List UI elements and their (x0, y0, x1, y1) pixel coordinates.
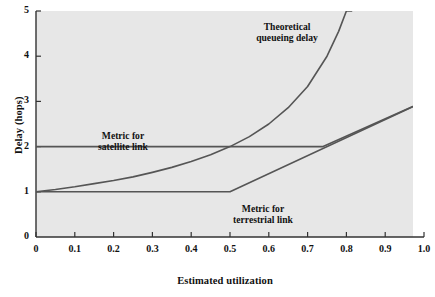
annotation-satellite-line2: satellite link (98, 141, 148, 152)
x-tick-label: 0.3 (132, 243, 172, 254)
annotation-terrestrial-link: Metric for terrestrial link (203, 203, 323, 226)
x-axis-title: Estimated utilization (130, 275, 320, 286)
y-tick-label: 5 (2, 4, 29, 15)
chart-figure: Delay (hops) Estimated utilization Theor… (0, 0, 435, 297)
annotation-theoretical-queueing-delay: Theoretical queueing delay (232, 21, 342, 44)
y-tick-label: 2 (2, 140, 29, 151)
annotation-theoretical-line2: queueing delay (256, 32, 318, 43)
y-tick-label: 0 (2, 230, 29, 241)
x-tick-label: 0.7 (288, 243, 328, 254)
y-tick-label: 4 (2, 49, 29, 60)
x-tick-label: 0.4 (171, 243, 211, 254)
annotation-satellite-link: Metric for satellite link (68, 130, 178, 153)
y-tick-label: 1 (2, 185, 29, 196)
x-tick-label: 0.6 (249, 243, 289, 254)
x-tick-label: 0.9 (365, 243, 405, 254)
x-tick-label: 0.5 (210, 243, 250, 254)
annotation-theoretical-line1: Theoretical (264, 21, 311, 32)
annotation-terrestrial-line1: Metric for (242, 203, 284, 214)
x-tick-label: 0.1 (55, 243, 95, 254)
x-tick-label: 0 (16, 243, 56, 254)
x-tick-label: 0.2 (94, 243, 134, 254)
y-tick-label: 3 (2, 94, 29, 105)
x-tick-label: 0.8 (326, 243, 366, 254)
x-tick-label: 1.0 (404, 243, 435, 254)
annotation-terrestrial-line2: terrestrial link (233, 214, 293, 225)
annotation-satellite-line1: Metric for (102, 130, 144, 141)
